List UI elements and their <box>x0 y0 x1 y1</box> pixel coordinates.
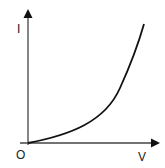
x-axis-label: V <box>138 150 146 164</box>
iv-curve <box>28 24 144 143</box>
y-axis-arrow-icon <box>24 9 33 18</box>
x-axis-arrow-icon <box>151 139 160 148</box>
iv-diagram <box>0 0 165 168</box>
origin-label: O <box>16 148 25 162</box>
y-axis-label: I <box>17 22 20 36</box>
